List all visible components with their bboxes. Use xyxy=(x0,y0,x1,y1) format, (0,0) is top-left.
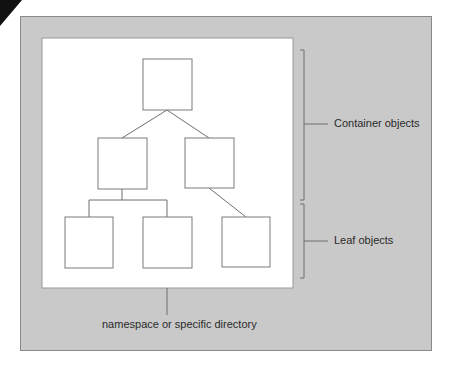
container-bracket xyxy=(300,50,304,200)
node-leaf-2 xyxy=(143,217,192,268)
node-root-container xyxy=(143,59,192,110)
container-objects-label: Container objects xyxy=(334,117,420,129)
node-leaf-1 xyxy=(65,217,113,268)
tree-diagram xyxy=(0,0,452,365)
leaf-objects-label: Leaf objects xyxy=(334,234,393,246)
node-leaf-3 xyxy=(222,217,270,267)
namespace-label: namespace or specific directory xyxy=(102,318,257,330)
node-container-right xyxy=(185,138,234,188)
node-container-left xyxy=(98,138,147,189)
leaf-bracket xyxy=(300,204,304,278)
